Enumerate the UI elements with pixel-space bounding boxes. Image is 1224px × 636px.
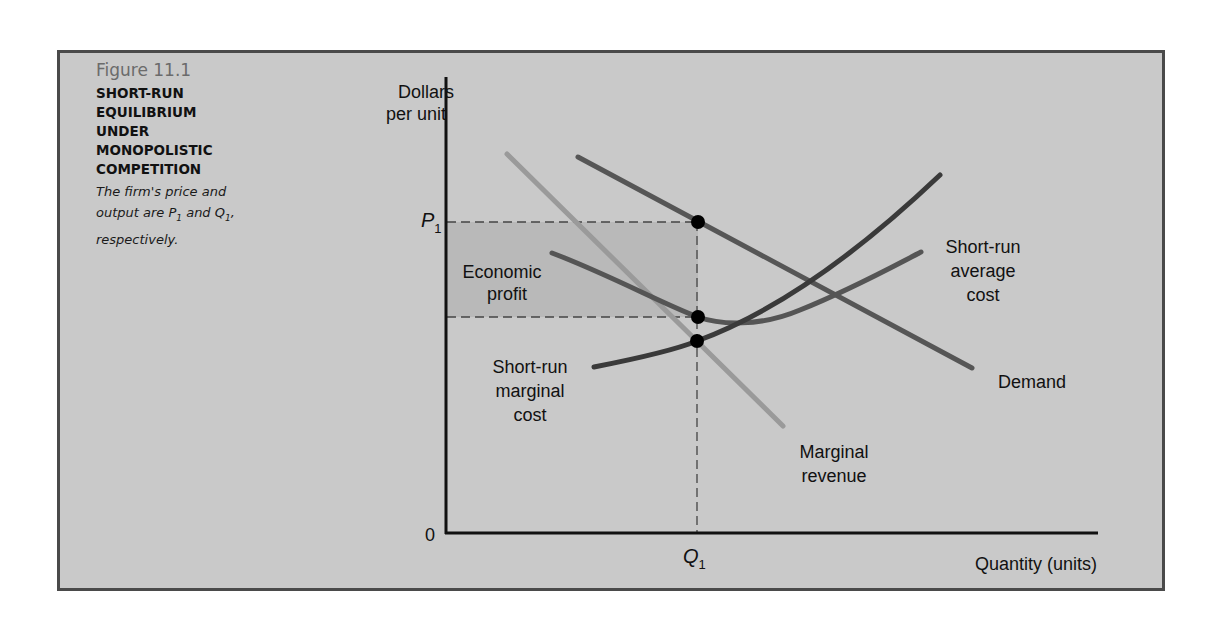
atc-label-line1: Short-run [945,237,1020,257]
q-letter: Q [683,545,699,567]
p-letter: P [421,209,435,231]
y-axis-label-line1: Dollars [398,82,454,102]
mc-label-line1: Short-run [492,357,567,377]
x-axis-label: Quantity (units) [975,554,1097,574]
q-subscript: 1 [699,557,706,572]
p-subscript: 1 [434,221,441,236]
chart-canvas: Dollars per unit 0 Quantity (units) P1 Q… [0,0,1224,636]
mc-label-line3: cost [513,405,546,425]
demand-label: Demand [998,372,1066,392]
average-cost-point [691,310,705,324]
origin-label: 0 [425,525,435,545]
mr-mc-intersection-point [690,334,704,348]
economic-profit-label-line1: Economic [462,262,541,282]
economic-profit-label-line2: profit [487,284,527,304]
mr-label-line1: Marginal [799,442,868,462]
atc-label-line3: cost [966,285,999,305]
p1-label: P1 [421,209,442,236]
q1-label: Q1 [683,545,706,572]
mr-label-line2: revenue [801,466,866,486]
demand-price-point [691,215,705,229]
mc-label-line2: marginal [495,381,564,401]
y-axis-label-line2: per unit [386,104,446,124]
atc-label-line2: average [950,261,1015,281]
